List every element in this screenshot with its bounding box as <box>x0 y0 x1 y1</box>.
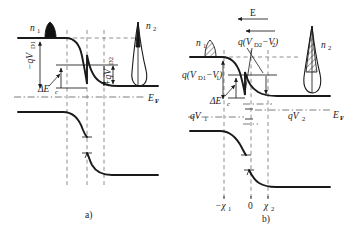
panel-a: n 1 n 2 −qV D1 +qV D2 ΔE c E F a) <box>14 21 159 221</box>
panel-b-qv1-text: qV <box>190 111 202 121</box>
panel-b-axis-label-left: −χ 1 <box>215 201 231 212</box>
panel-b-qv2-text: qV <box>288 111 300 121</box>
panel-b-bl-sub1: D1 <box>198 74 206 81</box>
panel-b-label-qv1: qV 1 <box>190 111 207 122</box>
panel-b-valence-band-left <box>190 131 246 155</box>
panel-b-dec-sub: c <box>227 100 230 107</box>
panel-a-n1-text: n <box>30 23 35 33</box>
panel-a-label-n1: n 1 <box>30 23 40 34</box>
panel-b-bl-close: ) <box>218 70 222 81</box>
panel-b-label-n1: n 1 <box>196 38 206 49</box>
panel-b-axis-zero-label: 0 <box>248 201 253 211</box>
panel-b-qv2-sub: 2 <box>302 115 305 122</box>
panel-a-label-barrier-right: +qV D2 <box>103 57 114 86</box>
panel-b-label-barrier-right: q(V D2 −V 2 ) <box>238 37 278 48</box>
panel-a-barrier-left-sub: D1 <box>29 41 36 49</box>
panel-a-n2-sub: 2 <box>153 25 156 32</box>
panel-a-delta-ec-text: ΔE <box>37 84 50 94</box>
panel-b-n1-sub: 1 <box>203 42 206 49</box>
panel-b-axis-label-right: χ 2 <box>263 201 274 212</box>
panel-b-label-fermi: E F <box>332 110 344 121</box>
panel-a-label-barrier-left: −qV D1 <box>25 41 36 70</box>
panel-b-n1-text: n <box>196 38 201 48</box>
panel-b-axis-right-text: χ <box>263 201 269 211</box>
panel-b: E n 1 n 2 q(V D1 −V 1 ) q(V D2 −V 2 ) ΔE… <box>182 8 344 225</box>
panel-b-n2-sub: 2 <box>328 44 331 51</box>
panel-a-label-fermi: E F <box>147 93 159 104</box>
panel-b-br-close: ) <box>274 37 278 48</box>
panel-a-n1-sub: 1 <box>37 27 40 34</box>
panel-b-fermi-sub: F <box>340 114 344 121</box>
panel-b-qv1-sub: 1 <box>204 115 207 122</box>
panel-b-bl-1: q(V <box>182 70 197 81</box>
figure-canvas: n 1 n 2 −qV D1 +qV D2 ΔE c E F a) <box>0 0 355 234</box>
panel-b-axis-left-text: −χ <box>215 201 226 211</box>
panel-b-field-label: E <box>250 8 256 18</box>
panel-b-label-qv2: qV 2 <box>288 111 305 122</box>
panel-a-caption: a) <box>85 210 92 221</box>
panel-b-label-barrier-left: q(V D1 −V 1 ) <box>182 70 222 81</box>
panel-a-barrier-left-text: −qV <box>25 52 35 70</box>
panel-b-dec-text: ΔE <box>209 96 222 106</box>
panel-a-dec-leader <box>49 74 60 86</box>
panel-a-fermi-sub: F <box>155 97 159 104</box>
panel-b-valence-band-right <box>249 170 330 187</box>
panel-a-delta-ec-sub: c <box>55 88 58 95</box>
panel-b-fermi-text: E <box>332 110 339 120</box>
panel-b-label-delta-ec: ΔE c <box>209 96 230 107</box>
panel-a-valence-band-left <box>18 112 87 137</box>
panel-b-label-n2: n 2 <box>321 40 331 51</box>
panel-a-valence-band-right <box>87 153 158 175</box>
panel-a-n2-text: n <box>146 21 151 31</box>
band-diagram-figure: n 1 n 2 −qV D1 +qV D2 ΔE c E F a) <box>0 0 355 234</box>
panel-b-n2-text: n <box>321 40 326 50</box>
panel-b-dec-leader <box>225 85 235 96</box>
panel-a-fermi-text: E <box>147 93 154 103</box>
panel-a-barrier-right-text: +qV <box>103 68 113 86</box>
panel-b-br-1: q(V <box>238 37 253 48</box>
panel-b-br-sub1: D2 <box>254 41 262 48</box>
panel-a-barrier-right-sub: D2 <box>107 57 114 65</box>
panel-b-caption: b) <box>262 214 270 225</box>
panel-b-axis-left-sub: 1 <box>228 205 231 212</box>
panel-b-axis-right-sub: 2 <box>271 205 274 212</box>
panel-a-n1-distribution <box>45 22 56 38</box>
panel-b-barrier-right-leader-1 <box>247 48 263 73</box>
panel-a-label-n2: n 2 <box>146 21 156 32</box>
panel-b-n1-distribution <box>205 40 216 57</box>
panel-a-label-delta-ec: ΔE c <box>37 84 58 95</box>
